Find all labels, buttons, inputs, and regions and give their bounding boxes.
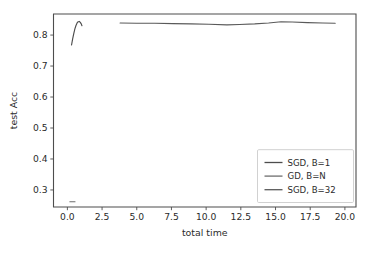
y-tick-label: 0.5 <box>33 122 48 133</box>
y-axis-ticks: 0.30.40.50.60.70.8 <box>33 29 54 195</box>
x-tick-label: 7.5 <box>164 211 179 222</box>
chart-legend: SGD, B=1GD, B=NSGD, B=32 <box>258 150 354 203</box>
legend-label-2: SGD, B=32 <box>288 185 336 195</box>
chart-figure: 0.02.55.07.510.012.515.017.520.0 0.30.40… <box>0 0 379 255</box>
x-tick-label: 17.5 <box>300 211 321 222</box>
x-axis-ticks: 0.02.55.07.510.012.515.017.520.0 <box>60 207 355 222</box>
x-tick-label: 0.0 <box>60 211 75 222</box>
x-tick-label: 15.0 <box>265 211 286 222</box>
line-chart: 0.02.55.07.510.012.515.017.520.0 0.30.40… <box>0 0 379 255</box>
y-tick-label: 0.8 <box>33 29 48 40</box>
legend-label-0: SGD, B=1 <box>288 158 331 168</box>
y-tick-label: 0.4 <box>33 153 48 164</box>
x-axis-title: total time <box>182 227 228 238</box>
legend-label-1: GD, B=N <box>288 171 326 181</box>
x-tick-label: 2.5 <box>95 211 110 222</box>
x-tick-label: 10.0 <box>196 211 217 222</box>
x-tick-label: 12.5 <box>231 211 252 222</box>
x-tick-label: 5.0 <box>129 211 144 222</box>
x-tick-label: 20.0 <box>335 211 356 222</box>
y-tick-label: 0.7 <box>33 60 48 71</box>
y-tick-label: 0.3 <box>33 184 48 195</box>
y-tick-label: 0.6 <box>33 91 48 102</box>
y-axis-title: test Acc <box>8 92 19 130</box>
